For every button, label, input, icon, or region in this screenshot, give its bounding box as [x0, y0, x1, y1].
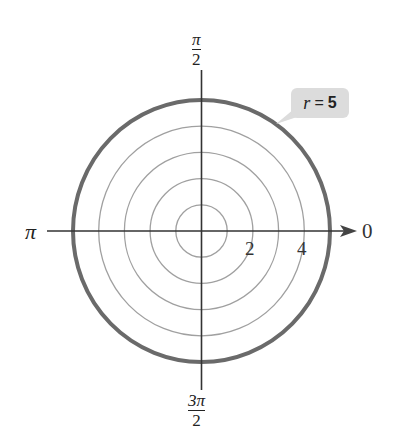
radial-tick-label-2: 2	[245, 238, 255, 260]
radial-tick-label-4: 4	[297, 238, 307, 260]
equation-callout: r = 5	[291, 88, 349, 118]
angle-label-zero: 0	[362, 219, 373, 244]
callout-value: 5	[328, 94, 337, 112]
fraction-denominator: 2	[192, 412, 201, 429]
callout-equals: =	[314, 94, 323, 112]
fraction-denominator: 2	[192, 51, 201, 68]
fraction-numerator: π	[192, 31, 201, 48]
fraction-numerator: 3π	[188, 392, 205, 409]
angle-label-pi: π	[25, 219, 36, 245]
angle-label-3pi-over-2: 3π 2	[188, 392, 205, 429]
angle-label-pi-over-2: π 2	[192, 31, 201, 68]
callout-variable: r	[303, 93, 310, 114]
